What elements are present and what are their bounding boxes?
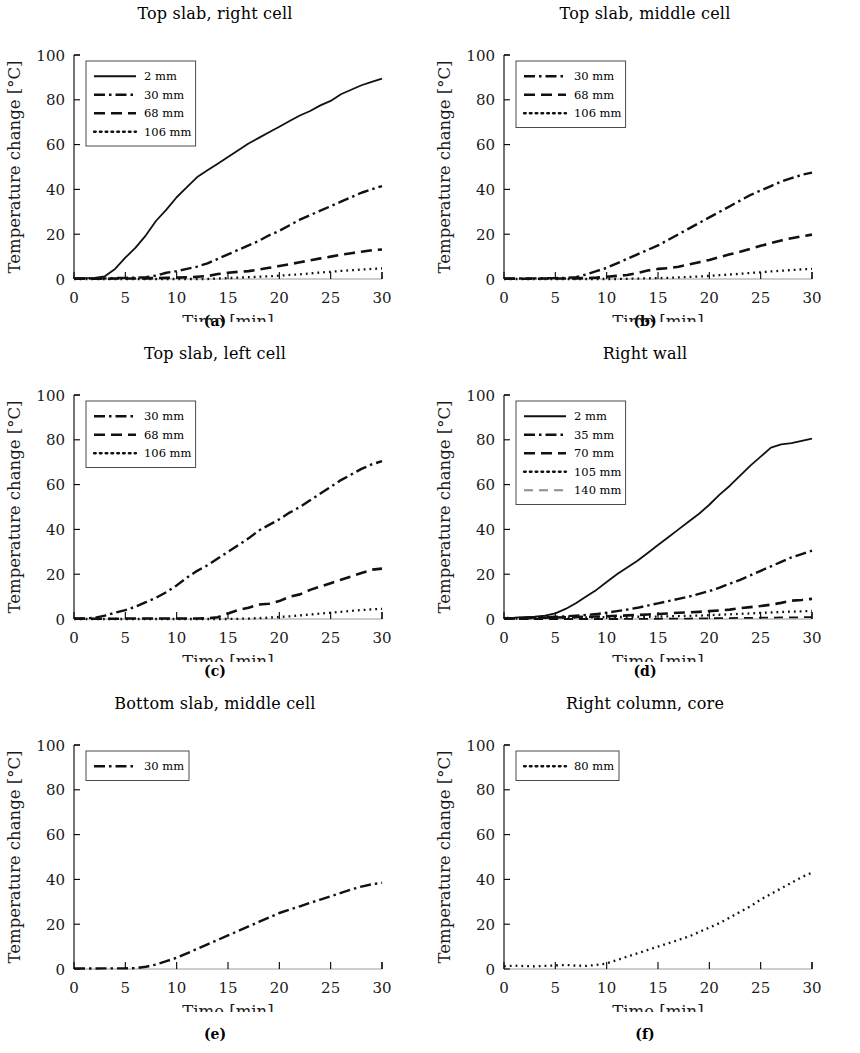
x-tick-label: 25	[321, 289, 340, 307]
x-tick-label: 20	[270, 979, 289, 997]
chart-plot-e: Temperature change [°C]Time [min]0204060…	[0, 712, 430, 1012]
x-tick-label: 15	[218, 629, 237, 647]
x-tick-label: 5	[551, 629, 561, 647]
x-tick-label: 30	[802, 289, 821, 307]
x-tick-label: 25	[321, 979, 340, 997]
y-tick-label: 20	[476, 916, 495, 934]
chart-title-d: Right wall	[430, 344, 860, 363]
y-tick-label: 80	[476, 781, 495, 799]
chart-title-e: Bottom slab, middle cell	[0, 694, 430, 713]
x-axis-label: Time [min]	[182, 652, 273, 662]
x-tick-label: 15	[218, 979, 237, 997]
x-tick-label: 0	[69, 979, 79, 997]
x-tick-label: 15	[648, 289, 667, 307]
chart-title-b: Top slab, middle cell	[430, 4, 860, 23]
chart-title-f: Right column, core	[430, 694, 860, 713]
y-tick-label: 0	[55, 961, 65, 979]
y-tick-label: 100	[466, 737, 495, 755]
x-tick-label: 20	[700, 629, 719, 647]
series-line-80-mm	[504, 873, 812, 967]
x-tick-label: 5	[121, 629, 131, 647]
legend-label-35-mm: 35 mm	[574, 428, 614, 442]
chart-title-a: Top slab, right cell	[0, 4, 430, 23]
chart-legend-c: 30 mm68 mm106 mm	[86, 401, 196, 468]
legend-label-106-mm: 106 mm	[574, 106, 622, 120]
chart-panel-d: Right wall(d)Temperature change [°C]Time…	[430, 340, 860, 690]
legend-label-30-mm: 30 mm	[144, 409, 184, 423]
series-line-35-mm	[504, 551, 812, 619]
x-tick-label: 10	[597, 629, 616, 647]
y-tick-label: 80	[46, 431, 65, 449]
x-tick-label: 10	[167, 979, 186, 997]
y-tick-label: 40	[476, 181, 495, 199]
series-line-30-mm	[504, 173, 812, 279]
legend-label-106-mm: 106 mm	[144, 125, 192, 139]
y-tick-label: 100	[36, 47, 65, 65]
y-tick-label: 60	[46, 476, 65, 494]
y-tick-label: 100	[36, 737, 65, 755]
series-line-30-mm	[74, 186, 382, 279]
chart-plot-b: Temperature change [°C]Time [min]0204060…	[430, 22, 860, 322]
y-tick-label: 80	[476, 91, 495, 109]
y-tick-label: 20	[46, 566, 65, 584]
x-tick-label: 25	[751, 979, 770, 997]
series-line-30-mm	[74, 883, 382, 969]
chart-legend-f: 80 mm	[516, 751, 619, 781]
x-tick-label: 20	[270, 289, 289, 307]
chart-caption-f: (f)	[430, 1026, 860, 1042]
y-tick-label: 20	[46, 916, 65, 934]
x-tick-label: 0	[69, 289, 79, 307]
x-tick-label: 10	[597, 289, 616, 307]
x-tick-label: 30	[802, 629, 821, 647]
y-tick-label: 0	[485, 271, 495, 289]
x-axis-label: Time [min]	[612, 312, 703, 322]
legend-label-2-mm: 2 mm	[144, 69, 177, 83]
y-tick-label: 60	[46, 136, 65, 154]
x-tick-label: 20	[270, 629, 289, 647]
chart-panel-c: Top slab, left cell(c)Temperature change…	[0, 340, 430, 690]
y-axis-label: Temperature change [°C]	[435, 751, 454, 964]
legend-label-80-mm: 80 mm	[574, 759, 614, 773]
x-tick-label: 15	[218, 289, 237, 307]
x-tick-label: 30	[802, 979, 821, 997]
figure-grid: Top slab, right cell(a)Temperature chang…	[0, 0, 860, 1053]
legend-label-68-mm: 68 mm	[144, 106, 184, 120]
y-axis-label: Temperature change [°C]	[435, 401, 454, 614]
y-tick-label: 40	[46, 871, 65, 889]
y-tick-label: 20	[476, 566, 495, 584]
legend-label-68-mm: 68 mm	[144, 428, 184, 442]
chart-plot-f: Temperature change [°C]Time [min]0204060…	[430, 712, 860, 1012]
y-tick-label: 80	[46, 91, 65, 109]
y-axis-label: Temperature change [°C]	[435, 61, 454, 274]
chart-panel-a: Top slab, right cell(a)Temperature chang…	[0, 0, 430, 340]
chart-legend-a: 2 mm30 mm68 mm106 mm	[86, 61, 196, 146]
x-tick-label: 5	[551, 289, 561, 307]
y-tick-label: 40	[46, 521, 65, 539]
chart-panel-e: Bottom slab, middle cell(e)Temperature c…	[0, 690, 430, 1053]
x-tick-label: 30	[372, 289, 391, 307]
chart-title-c: Top slab, left cell	[0, 344, 430, 363]
legend-label-30-mm: 30 mm	[144, 759, 184, 773]
chart-panel-f: Right column, core(f)Temperature change …	[430, 690, 860, 1053]
chart-plot-d: Temperature change [°C]Time [min]0204060…	[430, 362, 860, 662]
y-tick-label: 80	[476, 431, 495, 449]
y-axis-label: Temperature change [°C]	[5, 401, 24, 614]
x-tick-label: 15	[648, 629, 667, 647]
y-tick-label: 20	[476, 226, 495, 244]
x-tick-label: 30	[372, 979, 391, 997]
y-axis-label: Temperature change [°C]	[5, 751, 24, 964]
x-axis-label: Time [min]	[612, 1002, 703, 1012]
legend-label-30-mm: 30 mm	[144, 88, 184, 102]
y-tick-label: 60	[476, 476, 495, 494]
y-tick-label: 60	[476, 136, 495, 154]
chart-legend-e: 30 mm	[86, 751, 189, 781]
legend-label-30-mm: 30 mm	[574, 69, 614, 83]
chart-panel-b: Top slab, middle cell(b)Temperature chan…	[430, 0, 860, 340]
chart-caption-c: (c)	[0, 663, 430, 679]
y-tick-label: 0	[485, 961, 495, 979]
legend-label-106-mm: 106 mm	[144, 446, 192, 460]
y-axis-label: Temperature change [°C]	[5, 61, 24, 274]
x-tick-label: 0	[499, 979, 509, 997]
legend-label-70-mm: 70 mm	[574, 446, 614, 460]
x-tick-label: 25	[751, 629, 770, 647]
